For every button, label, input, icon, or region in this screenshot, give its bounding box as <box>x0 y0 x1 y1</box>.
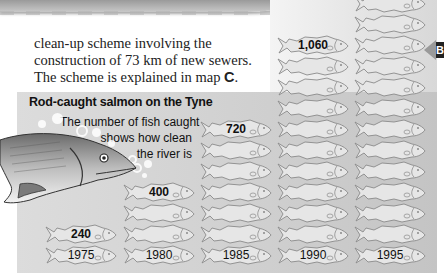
fish-icon <box>354 14 426 34</box>
fish-pictogram <box>354 56 426 76</box>
bubble-decoration <box>144 160 152 168</box>
category-label: 1995 <box>370 248 410 262</box>
fish-icon <box>277 119 349 139</box>
fish-pictogram: 1980 <box>123 245 195 265</box>
fish-icon <box>277 56 349 76</box>
fish-icon <box>354 56 426 76</box>
fish-pictogram <box>277 77 349 97</box>
fish-icon <box>200 161 272 181</box>
torn-paper-edge <box>0 0 290 12</box>
fish-pictogram <box>200 203 272 223</box>
fish-icon <box>200 203 272 223</box>
fish-pictogram <box>200 182 272 202</box>
fish-icon <box>277 224 349 244</box>
fish-icon <box>354 203 426 223</box>
fish-pictogram <box>354 203 426 223</box>
fish-pictogram <box>277 119 349 139</box>
fish-pictogram: 400 <box>123 182 195 202</box>
bubble-decoration <box>52 113 63 124</box>
fish-pictogram <box>123 203 195 223</box>
map-reference: C <box>224 69 234 85</box>
fish-pictogram <box>277 224 349 244</box>
fish-icon <box>123 203 195 223</box>
fish-icon <box>200 182 272 202</box>
fish-pictogram <box>200 224 272 244</box>
fish-pictogram <box>200 161 272 181</box>
fish-icon <box>277 161 349 181</box>
fish-icon <box>354 35 426 55</box>
fish-pictogram <box>354 182 426 202</box>
value-label: 400 <box>139 185 179 199</box>
category-label: 1980 <box>139 248 179 262</box>
fish-pictogram <box>354 224 426 244</box>
fish-pictogram <box>277 98 349 118</box>
fish-icon <box>277 182 349 202</box>
fish-pictogram <box>123 224 195 244</box>
fish-pictogram: 1995 <box>354 245 426 265</box>
fish-pictogram <box>277 56 349 76</box>
value-label: 1,060 <box>293 38 333 52</box>
fish-pictogram <box>277 161 349 181</box>
fish-pictogram: 1975 <box>45 245 117 265</box>
fish-pictogram <box>354 35 426 55</box>
fish-icon <box>277 77 349 97</box>
value-label: 720 <box>216 122 256 136</box>
fish-pictogram <box>354 140 426 160</box>
section-marker-b: B <box>436 42 444 58</box>
fish-icon <box>354 224 426 244</box>
fish-pictogram: 240 <box>45 224 117 244</box>
fish-icon <box>200 224 272 244</box>
category-label: 1975 <box>61 248 101 262</box>
fish-pictogram: 720 <box>200 119 272 139</box>
fish-icon <box>354 182 426 202</box>
fish-icon <box>354 0 426 13</box>
fish-pictogram <box>354 14 426 34</box>
fish-pictogram <box>277 203 349 223</box>
fish-icon <box>277 203 349 223</box>
fish-pictogram <box>200 140 272 160</box>
value-label: 240 <box>61 227 101 241</box>
body-line-2: construction of 73 km of new sewers. <box>34 52 274 69</box>
body-line-3: The scheme is explained in map C. <box>34 69 274 86</box>
body-line-1: clean-up scheme involving the <box>34 35 274 52</box>
category-label: 1990 <box>293 248 333 262</box>
fish-icon <box>200 140 272 160</box>
fish-icon <box>354 119 426 139</box>
bubble-decoration <box>38 120 46 128</box>
fish-icon <box>354 98 426 118</box>
fish-icon <box>354 77 426 97</box>
fish-pictogram <box>354 98 426 118</box>
fish-icon <box>354 140 426 160</box>
fish-pictogram: 1,060 <box>277 35 349 55</box>
category-label: 1985 <box>216 248 256 262</box>
fish-pictogram <box>354 77 426 97</box>
fish-icon <box>354 161 426 181</box>
fish-icon <box>277 140 349 160</box>
body-paragraph: clean-up scheme involving the constructi… <box>34 35 274 86</box>
fish-pictogram <box>354 119 426 139</box>
fish-pictogram <box>354 161 426 181</box>
chart-title: Rod-caught salmon on the Tyne <box>29 95 213 109</box>
fish-pictogram <box>277 182 349 202</box>
fish-pictogram: 1985 <box>200 245 272 265</box>
bubble-decoration <box>142 173 147 178</box>
fish-pictogram <box>277 140 349 160</box>
fish-icon <box>277 98 349 118</box>
fish-pictogram <box>354 0 426 13</box>
section-marker-arrow-icon <box>424 40 436 60</box>
fish-icon <box>123 224 195 244</box>
fish-pictogram: 1990 <box>277 245 349 265</box>
salmon-illustration-icon <box>0 128 140 204</box>
